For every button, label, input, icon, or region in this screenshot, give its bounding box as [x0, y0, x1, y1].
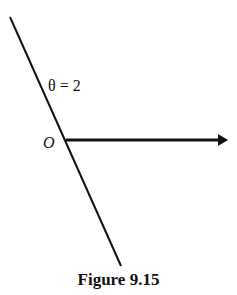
origin-label: O: [43, 134, 55, 151]
angle-label: θ = 2: [48, 77, 81, 94]
arrowhead-icon: [218, 134, 228, 146]
polar-diagram: θ = 2 O: [0, 0, 237, 295]
figure-caption: Figure 9.15: [0, 270, 237, 290]
